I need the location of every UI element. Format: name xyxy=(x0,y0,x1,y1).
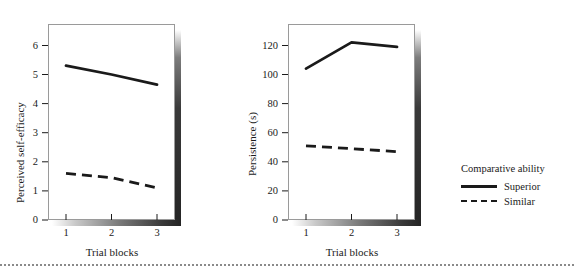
chart-panel-left: 0 1 2 3 4 5 6 1 2 3 Trial blocks Perceiv… xyxy=(0,0,230,275)
legend: Comparative ability Superior Similar xyxy=(461,163,571,209)
legend-title: Comparative ability xyxy=(461,163,571,174)
series-line-superior-right xyxy=(306,42,397,68)
ytick-label-right-120: 120 xyxy=(252,41,278,52)
legend-label-superior: Superior xyxy=(504,181,540,192)
series-line-similar-left xyxy=(66,173,157,188)
xtick-label-right-2: 2 xyxy=(342,228,362,239)
yaxis-title-right: Persistence (s) xyxy=(246,112,258,176)
series-line-similar-right xyxy=(306,146,397,152)
yaxis-title-left: Perceived self-efficacy xyxy=(14,102,26,203)
legend-label-similar: Similar xyxy=(504,196,535,207)
ytick-label-left-5: 5 xyxy=(20,70,38,81)
ytick-label-left-0: 0 xyxy=(20,215,38,226)
xtick-label-left-3: 3 xyxy=(147,228,167,239)
series-line-superior-left xyxy=(66,66,157,85)
figure-container: 0 1 2 3 4 5 6 1 2 3 Trial blocks Perceiv… xyxy=(0,0,574,275)
ytick-label-right-80: 80 xyxy=(252,99,278,110)
ytick-label-left-6: 6 xyxy=(20,41,38,52)
xtick-label-right-3: 3 xyxy=(387,228,407,239)
xtick-label-left-2: 2 xyxy=(102,228,122,239)
xtick-label-left-1: 1 xyxy=(56,228,76,239)
chart-panel-right: 0 20 40 60 80 100 120 1 2 3 Trial blocks… xyxy=(222,0,437,275)
xtick-label-right-1: 1 xyxy=(296,228,316,239)
ytick-label-right-0: 0 xyxy=(252,215,278,226)
legend-item-superior[interactable]: Superior xyxy=(461,179,571,193)
bottom-dotted-rule xyxy=(0,264,574,269)
ytick-label-right-100: 100 xyxy=(252,70,278,81)
legend-line-dashed-icon xyxy=(461,196,497,206)
legend-line-solid-icon xyxy=(461,181,497,191)
xaxis-title-right: Trial blocks xyxy=(302,246,402,258)
xaxis-title-left: Trial blocks xyxy=(62,246,162,258)
legend-item-similar[interactable]: Similar xyxy=(461,194,571,208)
ytick-label-right-20: 20 xyxy=(252,186,278,197)
